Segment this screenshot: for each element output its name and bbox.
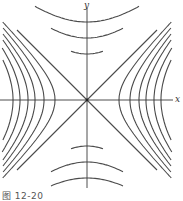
origin-point xyxy=(86,99,89,102)
hyperbola-family-diagram xyxy=(0,0,183,190)
figure-caption: 图 12-20 xyxy=(2,189,44,201)
x-axis-label: x xyxy=(175,94,180,104)
y-axis-label: y xyxy=(84,0,89,10)
